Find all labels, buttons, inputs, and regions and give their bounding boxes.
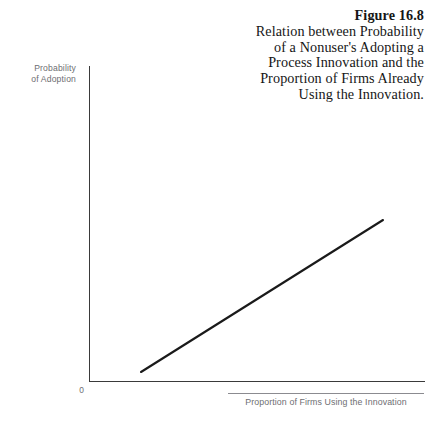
x-axis-label-group: Proportion of Firms Using the Innovation xyxy=(228,393,424,407)
x-axis-label-rule xyxy=(228,393,424,394)
y-axis-line xyxy=(89,66,90,382)
x-axis-label: Proportion of Firms Using the Innovation xyxy=(228,397,424,407)
y-axis-label-line-1: Probability xyxy=(0,63,76,74)
y-axis-label: Probability of Adoption xyxy=(0,63,76,86)
x-axis-line xyxy=(89,381,425,382)
y-axis-label-line-2: of Adoption xyxy=(0,74,76,85)
figure-container: Figure 16.8 Relation between Probability… xyxy=(0,0,447,427)
origin-tick-label: 0 xyxy=(70,385,84,395)
